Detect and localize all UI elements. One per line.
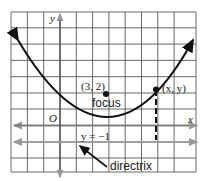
directrix-pointer [80, 146, 107, 167]
focus-label: focus [92, 96, 121, 110]
focus-coords-label: (3, 2) [81, 80, 105, 93]
y-axis-label: y [49, 12, 55, 24]
curve-point [153, 87, 159, 93]
x-axis-label: x [187, 113, 193, 125]
directrix-label: directrix [110, 159, 152, 173]
parabola-diagram: y x O (3, 2) focus (x, y) y = −1 directr… [0, 0, 210, 181]
directrix-equation-label: y = −1 [81, 130, 110, 142]
origin-label: O [49, 112, 57, 124]
point-label: (x, y) [162, 82, 186, 95]
